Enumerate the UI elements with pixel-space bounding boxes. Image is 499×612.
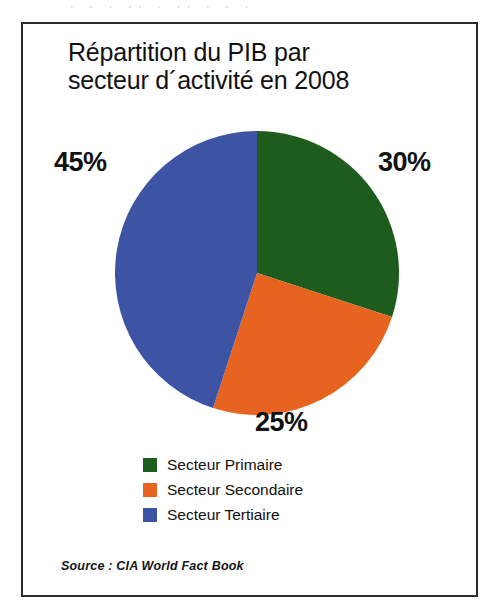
pie-label-primaire: 30% [378, 147, 431, 178]
legend-label-secondaire: Secteur Secondaire [167, 481, 303, 498]
pie-chart-svg [114, 130, 400, 416]
source-note: Source : CIA World Fact Book [61, 559, 244, 573]
legend-swatch-icon-primaire [143, 458, 157, 472]
figure-frame: Répartition du PIB par secteur d´activit… [21, 22, 478, 597]
pie-slices [115, 131, 399, 415]
legend-swatch-icon-tertiaire [143, 508, 157, 522]
legend-item-primaire: Secteur Primaire [143, 452, 443, 477]
legend-label-tertiaire: Secteur Tertiaire [167, 506, 280, 523]
legend-swatch-icon-secondaire [143, 483, 157, 497]
chart-legend: Secteur Primaire Secteur Secondaire Sect… [143, 452, 443, 527]
legend-item-secondaire: Secteur Secondaire [143, 477, 443, 502]
scan-edge-artifact: · · · ·· · ·· · · · [0, 0, 499, 14]
legend-label-primaire: Secteur Primaire [167, 456, 282, 473]
legend-item-tertiaire: Secteur Tertiaire [143, 502, 443, 527]
pie-label-tertiaire: 45% [54, 147, 107, 178]
chart-title: Répartition du PIB par secteur d´activit… [68, 38, 448, 94]
pie-chart [114, 130, 400, 416]
pie-label-secondaire: 25% [255, 407, 308, 438]
